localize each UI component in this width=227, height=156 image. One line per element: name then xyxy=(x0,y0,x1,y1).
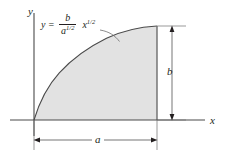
a-arrow-left xyxy=(34,138,41,143)
b-arrow-up xyxy=(170,26,175,33)
x-axis-label: x xyxy=(210,115,215,126)
diagram-canvas xyxy=(0,0,227,156)
curve-equation: y = b a1/2 x1/2 xyxy=(41,13,95,36)
figure-container: y x b a y = b a1/2 x1/2 xyxy=(0,0,227,156)
equation-equals: = xyxy=(48,19,54,30)
dimension-label-b: b xyxy=(167,66,173,77)
y-axis-label: y xyxy=(28,6,33,17)
fraction-numerator: b xyxy=(63,13,72,23)
equation-fraction: b a1/2 xyxy=(59,13,76,36)
fraction-denominator: a1/2 xyxy=(59,26,76,36)
equation-x-term: x1/2 xyxy=(82,19,95,30)
equation-lhs: y xyxy=(41,19,45,30)
equation-x-exponent: 1/2 xyxy=(87,18,95,25)
shaded-area xyxy=(34,26,157,120)
fraction-denominator-exponent: 1/2 xyxy=(66,24,74,31)
a-arrow-right xyxy=(151,138,158,143)
dimension-label-a: a xyxy=(92,134,104,145)
